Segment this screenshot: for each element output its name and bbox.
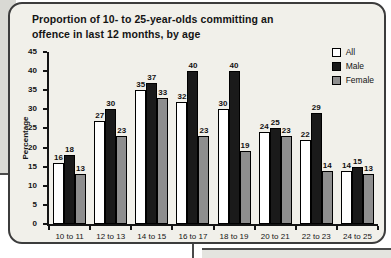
x-tick-mark [295, 226, 297, 230]
legend-item-all: All [332, 48, 374, 57]
legend-swatch-all [332, 48, 341, 57]
plot-area: 1618132730233537333240233040192425232229… [47, 52, 378, 226]
bar-value-label: 14 [323, 161, 332, 170]
bar-male-10to11: 18 [64, 155, 75, 224]
bar-all-22to23: 22 [300, 140, 311, 224]
x-tick-mark [213, 226, 215, 230]
bar-male-14to15: 37 [146, 83, 157, 224]
bar-groups: 1618132730233537333240233040192425232229… [49, 52, 378, 224]
bar-male-18to19: 40 [229, 71, 240, 224]
bar-female-12to13: 23 [116, 136, 127, 224]
bar-group: 304019 [214, 52, 255, 224]
bar-value-label: 29 [312, 103, 321, 112]
x-axis-category: 16 to 17 [172, 232, 213, 241]
bar-value-label: 27 [95, 111, 104, 120]
y-tick-label: 5 [17, 200, 37, 210]
bar-group: 273023 [90, 52, 131, 224]
bar-value-label: 16 [54, 153, 63, 162]
bar-male-12to13: 30 [105, 109, 116, 224]
bar-all-18to19: 30 [218, 109, 229, 224]
bar-male-16to17: 40 [187, 71, 198, 224]
bar-value-label: 37 [147, 73, 156, 82]
bar-value-label: 40 [188, 61, 197, 70]
bar-value-label: 18 [65, 145, 74, 154]
legend-label: Male [346, 62, 364, 71]
bar-male-22to23: 29 [311, 113, 322, 224]
y-tick-label: 25 [17, 123, 37, 133]
bar-all-24to25: 14 [341, 171, 352, 225]
x-axis-labels: 10 to 1112 to 1314 to 1516 to 1718 to 19… [49, 232, 378, 241]
bar-group: 353733 [131, 52, 172, 224]
legend-label: All [346, 48, 355, 57]
x-axis-category: 24 to 25 [337, 232, 378, 241]
legend-swatch-male [332, 62, 341, 71]
x-axis-category: 12 to 13 [90, 232, 131, 241]
bar-value-label: 23 [199, 126, 208, 135]
x-tick-mark [171, 226, 173, 230]
y-tick-label: 35 [17, 85, 37, 95]
chart-title: Proportion of 10- to 25-year-olds commit… [32, 12, 310, 42]
legend-label: Female [346, 76, 374, 85]
bar-group: 161813 [49, 52, 90, 224]
bar-female-16to17: 23 [198, 136, 209, 224]
bar-value-label: 35 [136, 80, 145, 89]
x-tick-mark [377, 226, 379, 230]
legend-swatch-female [332, 76, 341, 85]
bar-value-label: 19 [241, 141, 250, 150]
bar-value-label: 22 [301, 130, 310, 139]
y-tick-label: 20 [17, 143, 37, 153]
bar-group: 242523 [255, 52, 296, 224]
y-axis: 051015202530354045 [10, 52, 47, 224]
bar-value-label: 30 [219, 99, 228, 108]
bar-value-label: 25 [271, 118, 280, 127]
x-tick-mark [254, 226, 256, 230]
bar-value-label: 23 [282, 126, 291, 135]
x-tick-mark [130, 226, 132, 230]
bar-all-16to17: 32 [176, 102, 187, 224]
bar-value-label: 30 [106, 99, 115, 108]
legend-item-female: Female [332, 76, 374, 85]
bar-value-label: 40 [230, 61, 239, 70]
bar-all-20to21: 24 [259, 132, 270, 224]
bar-female-10to11: 13 [75, 174, 86, 224]
x-tick-mark [336, 226, 338, 230]
bar-all-10to11: 16 [53, 163, 64, 224]
bar-female-20to21: 23 [281, 136, 292, 224]
bar-value-label: 23 [117, 126, 126, 135]
bar-value-label: 32 [177, 92, 186, 101]
legend-item-male: Male [332, 62, 374, 71]
page: Proportion of 10- to 25-year-olds commit… [0, 0, 391, 258]
chart-card: Proportion of 10- to 25-year-olds commit… [8, 2, 386, 244]
y-tick-label: 45 [17, 47, 37, 57]
x-axis-ticks [49, 226, 378, 231]
x-axis-category: 14 to 15 [131, 232, 172, 241]
bar-female-22to23: 14 [322, 171, 333, 225]
x-tick-mark [48, 226, 50, 230]
legend: AllMaleFemale [332, 48, 374, 90]
bar-all-14to15: 35 [135, 90, 146, 224]
background-bottom-panel [202, 248, 391, 258]
y-tick-label: 0 [17, 219, 37, 229]
x-axis-category: 22 to 23 [296, 232, 337, 241]
y-tick-label: 40 [17, 66, 37, 76]
bar-value-label: 33 [158, 88, 167, 97]
bar-value-label: 13 [364, 164, 373, 173]
bar-female-18to19: 19 [240, 151, 251, 224]
bar-value-label: 24 [260, 122, 269, 131]
bar-female-14to15: 33 [157, 98, 168, 224]
bar-male-20to21: 25 [270, 128, 281, 224]
x-axis-category: 10 to 11 [49, 232, 90, 241]
bar-female-24to25: 13 [363, 174, 374, 224]
bar-male-24to25: 15 [352, 167, 363, 224]
y-tick-label: 30 [17, 104, 37, 114]
bar-value-label: 15 [353, 157, 362, 166]
bar-all-12to13: 27 [94, 121, 105, 224]
x-axis-category: 18 to 19 [214, 232, 255, 241]
bar-value-label: 14 [342, 161, 351, 170]
x-axis-category: 20 to 21 [255, 232, 296, 241]
bar-value-label: 13 [76, 164, 85, 173]
bar-group: 324023 [172, 52, 213, 224]
x-tick-mark [89, 226, 91, 230]
y-tick-label: 15 [17, 162, 37, 172]
connector-line [192, 243, 194, 258]
